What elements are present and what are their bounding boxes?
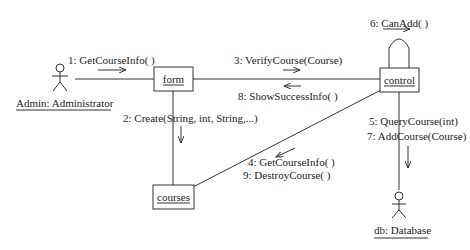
- form-object-label: form: [163, 73, 185, 85]
- courses-object-label: courses: [157, 191, 190, 203]
- message-2-label: 2: Create(String, int, String,...): [123, 112, 258, 125]
- actor-head-icon: [56, 64, 64, 72]
- form-object: form: [154, 67, 193, 91]
- message-7-label: 7: AddCourse(Course): [367, 130, 467, 143]
- db-actor-label: db: Database: [374, 224, 431, 236]
- control-object: control: [380, 68, 419, 92]
- admin-actor-label: Admin: Administrator: [16, 97, 114, 109]
- message-3-label: 3: VerifyCourse(Course): [234, 54, 343, 67]
- message-9-label: 9: DestroyCourse( ): [243, 169, 331, 182]
- admin-actor: Admin: Administrator: [16, 64, 114, 110]
- db-actor: db: Database: [374, 192, 431, 238]
- message-4-label: 4: GetCourseInfo( ): [248, 156, 335, 169]
- actor-head-icon: [395, 192, 403, 200]
- message-5-label: 5: QueryCourse(int): [369, 115, 458, 128]
- diagram-svg: Admin: Administrator form control course…: [0, 0, 470, 250]
- collaboration-diagram: Admin: Administrator form control course…: [0, 0, 470, 250]
- message-8-label: 8: ShowSuccessInfo( ): [238, 90, 338, 103]
- courses-object: courses: [153, 185, 194, 209]
- self-link-control: [389, 39, 409, 68]
- control-object-label: control: [384, 74, 415, 86]
- message-6-label: 6: CanAdd( ): [370, 17, 428, 30]
- message-1-label: 1: GetCourseInfo( ): [68, 54, 155, 67]
